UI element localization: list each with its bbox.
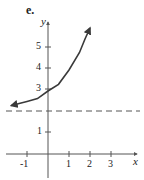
x-axis-label: x [133, 155, 138, 167]
y-tick-5: 5 [36, 40, 41, 51]
graph [0, 0, 144, 180]
y-axis-label: y [41, 15, 46, 27]
y-tick-4: 4 [36, 61, 41, 72]
x-tick-neg1: -1 [20, 158, 28, 169]
y-tick-1: 1 [37, 125, 42, 136]
x-tick-2: 2 [87, 158, 92, 169]
y-tick-3: 3 [36, 82, 41, 93]
x-tick-1: 1 [66, 158, 71, 169]
exponential-curve [11, 28, 90, 106]
x-tick-3: 3 [108, 158, 113, 169]
